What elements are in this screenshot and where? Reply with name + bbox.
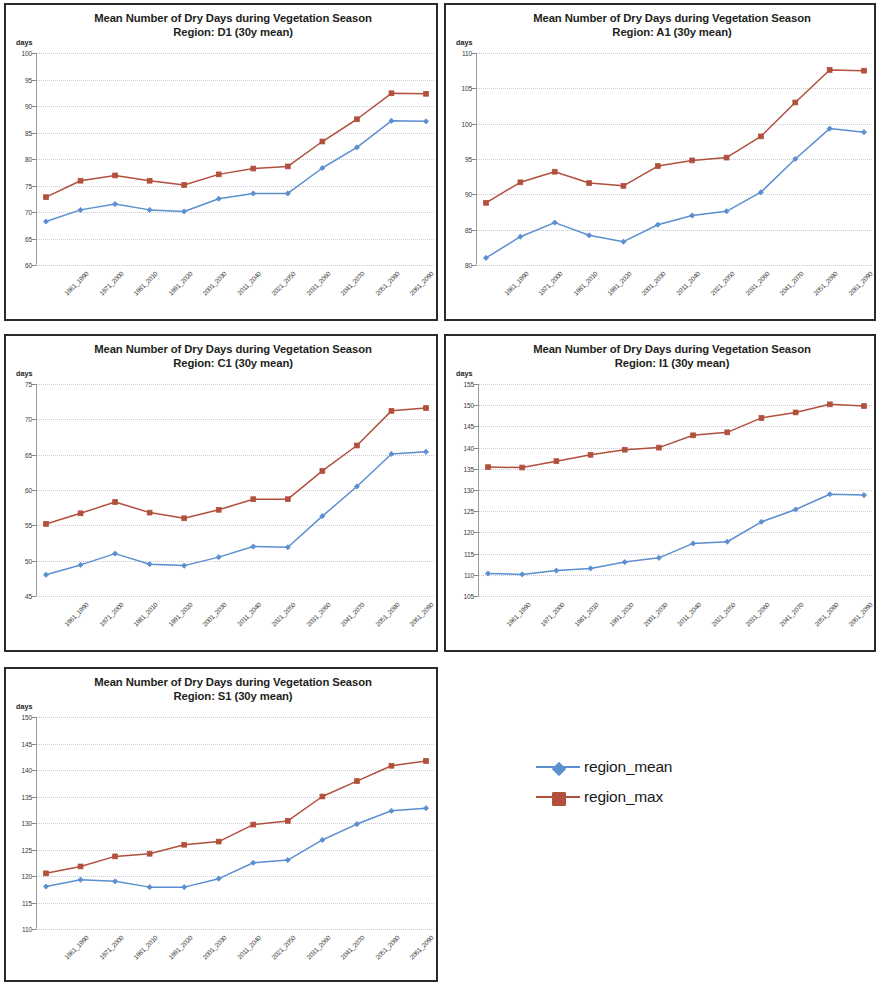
data-point-marker	[44, 522, 49, 527]
data-point-marker	[586, 233, 591, 238]
y-tick-mark	[474, 596, 478, 597]
chart-title-line1: Mean Number of Dry Days during Vegetatio…	[94, 676, 372, 688]
legend-swatch-region-max	[536, 790, 580, 804]
chart-title-i1: Mean Number of Dry Days during Vegetatio…	[446, 342, 874, 370]
y-tick-label: 100	[6, 50, 32, 57]
chart-title-line1: Mean Number of Dry Days during Vegetatio…	[94, 343, 372, 355]
data-point-marker	[320, 794, 325, 799]
data-point-marker	[354, 821, 359, 826]
data-point-marker	[389, 763, 394, 768]
chart-title-a1: Mean Number of Dry Days during Vegetatio…	[446, 11, 874, 39]
data-point-marker	[485, 571, 490, 576]
data-point-marker	[655, 164, 660, 169]
x-tick-label: 1981_2010	[573, 601, 600, 628]
chart-subtitle: Region: D1 (30y mean)	[30, 25, 436, 39]
x-tick-label: 2001_2030	[642, 601, 669, 628]
data-point-marker	[423, 449, 428, 454]
y-tick-label: 140	[448, 444, 474, 451]
chart-title-c1: Mean Number of Dry Days during Vegetatio…	[6, 342, 436, 370]
series-line-region-mean	[46, 808, 426, 887]
chart-panel-d1: Mean Number of Dry Days during Vegetatio…	[4, 3, 438, 321]
y-tick-mark	[32, 265, 36, 266]
y-tick-label: 115	[448, 550, 474, 557]
data-point-marker	[861, 130, 866, 135]
series-layer	[478, 384, 872, 596]
x-tick-label: 2031_2060	[744, 601, 771, 628]
data-point-marker	[656, 555, 661, 560]
chart-panel-s1: Mean Number of Dry Days during Vegetatio…	[4, 667, 438, 982]
data-point-marker	[793, 410, 798, 415]
data-point-marker	[690, 541, 695, 546]
series-line-region-mean	[486, 129, 864, 258]
y-tick-label: 115	[6, 899, 32, 906]
data-point-marker	[182, 209, 187, 214]
y-tick-mark	[32, 929, 36, 930]
data-point-marker	[520, 572, 525, 577]
data-point-marker	[621, 239, 626, 244]
x-tick-label: 2041_2070	[778, 270, 805, 297]
y-tick-label: 145	[448, 423, 474, 430]
square-marker-icon	[552, 792, 566, 806]
legend-label-region-mean: region_mean	[584, 758, 672, 776]
data-point-marker	[44, 871, 49, 876]
data-point-marker	[759, 134, 764, 139]
x-tick-label: 2041_2070	[339, 934, 366, 961]
data-point-marker	[251, 191, 256, 196]
data-point-marker	[44, 195, 49, 200]
data-point-marker	[484, 200, 489, 205]
data-point-marker	[518, 180, 523, 185]
data-point-marker	[622, 559, 627, 564]
chart-subtitle: Region: C1 (30y mean)	[30, 356, 436, 370]
data-point-marker	[621, 183, 626, 188]
y-axis-label: days	[16, 369, 32, 378]
y-tick-label: 70	[6, 209, 32, 216]
y-tick-label: 95	[6, 76, 32, 83]
x-tick-label: 2001_2030	[201, 270, 228, 297]
x-tick-label: 2021_2050	[270, 270, 297, 297]
y-tick-label: 100	[446, 120, 472, 127]
y-tick-mark	[472, 265, 476, 266]
x-tick-label: 1991_2020	[606, 270, 633, 297]
data-point-marker	[588, 566, 593, 571]
y-tick-label: 125	[6, 846, 32, 853]
data-point-marker	[861, 492, 866, 497]
figure-legend: region_mean region_max	[536, 752, 672, 812]
y-axis-label: days	[456, 369, 472, 378]
data-point-marker	[113, 500, 118, 505]
data-point-marker	[43, 219, 48, 224]
data-point-marker	[147, 510, 152, 515]
data-point-marker	[78, 864, 83, 869]
y-tick-label: 155	[448, 381, 474, 388]
x-tick-label: 1991_2020	[167, 601, 194, 628]
y-tick-label: 65	[6, 451, 32, 458]
data-point-marker	[725, 430, 730, 435]
x-tick-label: 1971_2000	[98, 270, 125, 297]
data-point-marker	[78, 877, 83, 882]
x-tick-label: 1971_2000	[98, 601, 125, 628]
x-tick-label: 1991_2020	[167, 270, 194, 297]
data-point-marker	[424, 759, 429, 764]
x-tick-label: 2051_2080	[813, 601, 840, 628]
data-point-marker	[355, 443, 360, 448]
y-tick-label: 90	[6, 103, 32, 110]
legend-item-region-mean: region_mean	[536, 752, 672, 782]
x-tick-label: 1961_1990	[63, 934, 90, 961]
data-point-marker	[113, 173, 118, 178]
x-tick-label: 2061_2090	[408, 270, 435, 297]
legend-item-region-max: region_max	[536, 782, 672, 812]
x-tick-label: 2041_2070	[778, 601, 805, 628]
data-point-marker	[389, 408, 394, 413]
x-tick-label: 2031_2060	[744, 270, 771, 297]
x-tick-label: 2061_2090	[408, 601, 435, 628]
y-tick-label: 75	[6, 182, 32, 189]
gridline	[36, 596, 434, 597]
chart-panel-i1: Mean Number of Dry Days during Vegetatio…	[444, 334, 876, 652]
data-point-marker	[147, 562, 152, 567]
x-tick-label: 2061_2090	[847, 601, 874, 628]
plot-area-a1: 808590951001051101961_19901971_20001981_…	[476, 53, 872, 265]
y-tick-label: 55	[6, 522, 32, 529]
plot-area-d1: 60657075808590951001961_19901971_2000198…	[36, 53, 434, 265]
data-point-marker	[251, 166, 256, 171]
data-point-marker	[216, 876, 221, 881]
data-point-marker	[182, 842, 187, 847]
